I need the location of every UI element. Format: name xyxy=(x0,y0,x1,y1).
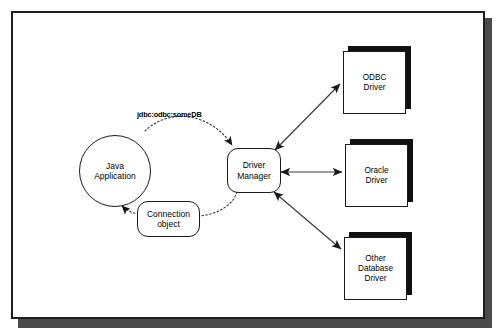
odbc-driver-label-line2: Driver xyxy=(363,83,387,93)
odbc-driver-label-line1: ODBC xyxy=(363,73,387,83)
node-oracle-driver: Oracle Driver xyxy=(345,144,408,207)
connection-object-label-line1: Connection xyxy=(147,209,190,219)
node-driver-manager: Driver Manager xyxy=(227,148,281,193)
other-driver-label-line1: Other xyxy=(358,254,393,264)
node-odbc-driver: ODBC Driver xyxy=(343,51,406,114)
other-driver-label-line3: Driver xyxy=(358,274,393,284)
node-connection-object: Connection object xyxy=(137,201,200,237)
other-driver-label: Other Database Driver xyxy=(358,254,393,284)
java-application-label: Java Application xyxy=(94,161,136,182)
node-other-database-driver: Other Database Driver xyxy=(344,237,407,300)
java-application-label-line2: Application xyxy=(94,171,136,181)
oracle-driver-label: Oracle Driver xyxy=(364,166,388,186)
other-driver-label-line2: Database xyxy=(358,264,393,274)
connection-object-label: Connection object xyxy=(147,209,190,230)
diagram-canvas: jdbc:odbc:someDB Java Application Connec… xyxy=(0,0,498,335)
node-java-application: Java Application xyxy=(79,135,151,207)
oracle-driver-label-line1: Oracle xyxy=(364,166,388,176)
oracle-driver-label-line2: Driver xyxy=(364,176,388,186)
driver-manager-label-line2: Manager xyxy=(237,171,271,181)
jdbc-url-label: jdbc:odbc:someDB xyxy=(137,110,202,119)
driver-manager-label: Driver Manager xyxy=(237,160,271,181)
java-application-label-line1: Java xyxy=(94,161,136,171)
driver-manager-label-line1: Driver xyxy=(237,160,271,170)
odbc-driver-label: ODBC Driver xyxy=(363,73,387,93)
connection-object-label-line2: object xyxy=(147,219,190,229)
